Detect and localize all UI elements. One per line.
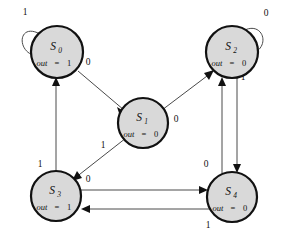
state-node-s0[interactable]: S 0 out = 1 [31,26,83,78]
state-node-s4[interactable]: S 4 out = 0 [207,172,257,222]
state-s3-name: S [49,184,55,196]
state-s4-out-equals: = [231,203,236,213]
state-s2-name: S [225,40,231,52]
state-s4-subscript: 4 [233,191,237,200]
transition-s2-s2-label: 0 [264,8,269,18]
transition-s1-s2: 0 [162,70,214,124]
transition-s3-s4: 0 [79,174,208,194]
transition-s4-s3-arrowhead [81,205,90,213]
transition-s2-s4: 1 [233,72,246,173]
state-s2-out-equals: = [230,58,235,68]
state-s4-circle[interactable] [207,172,257,222]
transition-s1-s2-arrowhead [204,70,214,80]
state-s0-out-value: 1 [67,58,71,68]
state-machine-diagram: 1 0 0 0 1 1 [0,0,283,241]
state-s0-out-label: out [37,58,49,68]
state-s2-out-value: 0 [242,58,246,68]
state-node-s1[interactable]: S 1 out = 0 [118,98,168,148]
state-s3-circle[interactable] [31,171,81,221]
transition-s0-s1: 0 [78,57,127,116]
state-s1-name: S [136,111,142,123]
transition-s1-s2-label: 0 [174,114,179,124]
transition-s4-s3-label: 1 [206,220,211,230]
state-s3-subscript: 3 [56,190,61,199]
transition-s4-s2-label: 0 [204,159,209,169]
fsm-canvas: 1 0 0 0 1 1 [0,0,283,241]
state-node-s2[interactable]: S 2 out = 0 [206,26,258,78]
transition-s4-s2: 0 [204,77,226,173]
state-s2-circle[interactable] [206,26,258,78]
state-s4-out-value: 0 [243,203,247,213]
transition-s1-s3: 1 [72,138,126,181]
state-s0-out-equals: = [55,58,60,68]
transition-s0-s0-label: 1 [23,7,28,17]
state-s0-circle[interactable] [31,26,83,78]
state-s1-out-equals: = [142,129,147,139]
transition-s3-s0: 1 [38,77,60,171]
state-s2-out-label: out [212,58,224,68]
transition-s0-s1-label: 0 [86,57,91,67]
state-node-s3[interactable]: S 3 out = 1 [31,171,81,221]
state-s2-subscript: 2 [233,46,237,55]
state-s1-subscript: 1 [144,117,148,126]
transition-s4-s2-arrowhead [218,77,226,86]
state-s4-out-label: out [213,203,225,213]
state-s1-out-label: out [124,129,136,139]
state-s4-name: S [225,185,231,197]
state-s0-subscript: 0 [58,46,62,55]
transition-s4-s3: 1 [81,205,222,230]
state-s3-out-label: out [37,202,49,212]
state-s3-out-equals: = [55,202,60,212]
state-s3-out-value: 1 [67,202,71,212]
state-s1-circle[interactable] [118,98,168,148]
transition-s1-s2-path [162,73,211,110]
state-s0-name: S [50,40,56,52]
transition-s1-s3-label: 1 [101,140,106,150]
transition-s3-s4-label: 0 [86,174,91,184]
transition-s0-s1-path [78,71,124,110]
transition-s3-s0-label: 1 [38,159,43,169]
state-s1-out-value: 0 [154,129,158,139]
